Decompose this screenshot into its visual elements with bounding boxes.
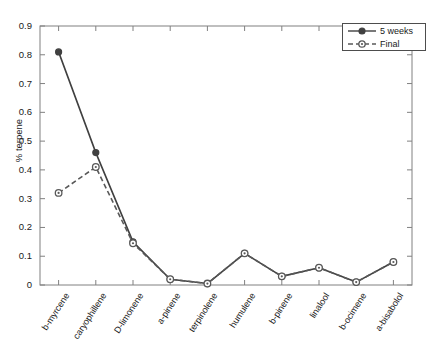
y-tick-label: 0.9 [0,20,32,31]
data-point [56,49,62,55]
legend-item-final: Final [343,37,425,50]
y-tick-label: 0.2 [0,221,32,232]
data-point-center [58,192,60,194]
data-point-center [355,281,357,283]
y-tick-label: 0.3 [0,193,32,204]
y-tick-label: 0.6 [0,106,32,117]
data-point-center [95,166,97,168]
data-point-center [318,267,320,269]
data-point-center [169,278,171,280]
data-point-center [281,275,283,277]
data-point-center [244,252,246,254]
data-point-center [206,282,208,284]
data-point-center [392,261,394,263]
y-tick-label: 0.7 [0,78,32,89]
y-tick-label: 0.5 [0,135,32,146]
series-line-0 [59,52,394,284]
legend-label-5-weeks: 5 weeks [380,26,413,36]
chart-legend: 5 weeks Final [342,23,426,51]
legend-swatch-solid-line [347,25,377,37]
data-point-center [132,242,134,244]
y-tick-label: 0.8 [0,49,32,60]
data-point [93,150,99,156]
legend-label-final: Final [380,39,400,49]
legend-item-5-weeks: 5 weeks [343,24,425,37]
y-tick-label: 0.4 [0,164,32,175]
y-tick-label: 0.1 [0,250,32,261]
legend-swatch-dashed-line [347,38,377,50]
y-tick-label: 0 [0,279,32,290]
chart-figure: % terpene 00.10.20.30.40.50.60.70.80.9 b… [0,0,436,353]
